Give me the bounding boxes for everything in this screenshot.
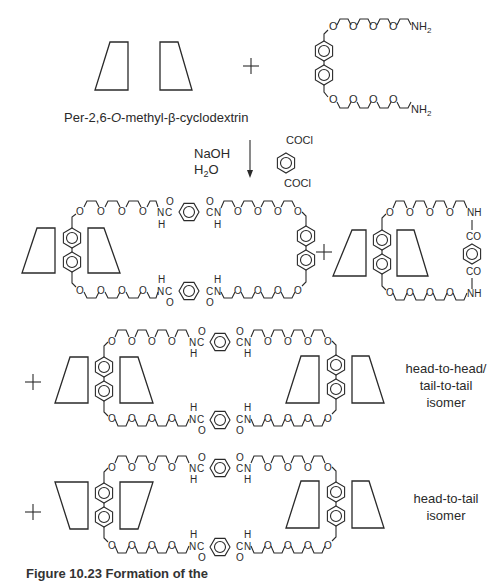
- svg-text:O: O: [284, 462, 292, 473]
- svg-text:C: C: [197, 337, 204, 348]
- svg-text:C: C: [197, 463, 204, 474]
- svg-text:N: N: [244, 337, 251, 348]
- svg-text:O: O: [97, 206, 105, 217]
- svg-text:O: O: [329, 20, 338, 32]
- svg-text:O: O: [254, 285, 262, 296]
- svg-text:O: O: [76, 285, 84, 296]
- svg-text:O: O: [128, 462, 136, 473]
- svg-text:O: O: [206, 297, 214, 308]
- product-rotaxane-1: O O O O N H C O C O N H O O O O O O O O …: [22, 196, 315, 308]
- svg-text:O: O: [446, 207, 454, 218]
- svg-text:C: C: [206, 207, 213, 218]
- svg-text:N: N: [189, 414, 196, 425]
- svg-text:O: O: [406, 207, 414, 218]
- svg-text:N: N: [157, 207, 164, 218]
- svg-text:CO: CO: [466, 266, 481, 277]
- svg-text:H: H: [190, 529, 197, 540]
- svg-text:O: O: [446, 287, 454, 298]
- svg-text:O: O: [168, 462, 176, 473]
- cyclodextrin-right-half-icon: [160, 42, 192, 90]
- svg-text:O: O: [148, 462, 156, 473]
- svg-text:O: O: [264, 462, 272, 473]
- svg-text:O: O: [166, 297, 174, 308]
- svg-text:H: H: [214, 274, 221, 285]
- svg-text:C: C: [236, 541, 243, 552]
- reactant-label: Per-2,6-O-methyl-β-cyclodextrin: [64, 110, 249, 125]
- svg-text:O: O: [284, 413, 292, 424]
- svg-text:O: O: [198, 452, 206, 463]
- svg-text:O: O: [168, 540, 176, 551]
- svg-text:O: O: [118, 206, 126, 217]
- svg-text:O: O: [128, 540, 136, 551]
- ht-isomer: O O O O N H C O C O N H O O O O O O O O …: [55, 452, 384, 563]
- svg-text:O: O: [304, 336, 312, 347]
- svg-text:C: C: [236, 337, 243, 348]
- svg-text:O: O: [148, 540, 156, 551]
- svg-text:H: H: [244, 348, 251, 359]
- amine-group-top: NH2: [411, 20, 432, 35]
- svg-text:O: O: [108, 462, 116, 473]
- svg-text:C: C: [197, 541, 204, 552]
- biphenyl-diamine-reactant: O O O O NH2 O O O O NH2: [315, 19, 431, 118]
- svg-text:O: O: [304, 413, 312, 424]
- svg-text:O: O: [206, 196, 214, 207]
- amine-group-bottom: NH2: [411, 103, 432, 118]
- svg-text:NH: NH: [467, 207, 481, 218]
- svg-text:O: O: [128, 413, 136, 424]
- svg-text:O: O: [254, 206, 262, 217]
- svg-text:O: O: [198, 425, 206, 436]
- svg-text:C: C: [165, 207, 172, 218]
- svg-text:O: O: [294, 206, 302, 217]
- svg-text:O: O: [274, 285, 282, 296]
- svg-text:O: O: [264, 413, 272, 424]
- svg-text:H: H: [244, 474, 251, 485]
- reagent-water: H2O: [194, 162, 219, 179]
- reaction-arrow: [247, 140, 253, 178]
- svg-text:H: H: [190, 474, 197, 485]
- svg-text:O: O: [369, 93, 378, 105]
- plus-sign-4: [25, 504, 41, 520]
- product-rotaxane-2-partial: O O O O NH CO CO O O O O NH: [333, 201, 481, 300]
- terephthaloyl-chloride: COCl COCl: [277, 134, 312, 189]
- svg-text:O: O: [274, 206, 282, 217]
- svg-text:O: O: [349, 93, 358, 105]
- svg-text:O: O: [369, 20, 378, 32]
- svg-text:O: O: [234, 285, 242, 296]
- svg-text:N: N: [189, 541, 196, 552]
- svg-text:COCl: COCl: [284, 177, 311, 189]
- svg-text:O: O: [284, 336, 292, 347]
- svg-text:N: N: [214, 207, 221, 218]
- svg-text:N: N: [214, 286, 221, 297]
- svg-text:C: C: [197, 414, 204, 425]
- svg-text:N: N: [189, 337, 196, 348]
- svg-text:O: O: [148, 413, 156, 424]
- svg-text:O: O: [386, 207, 394, 218]
- plus-sign-1: [243, 58, 259, 74]
- svg-text:O: O: [304, 462, 312, 473]
- plus-sign-2: [316, 244, 332, 260]
- svg-text:COCl: COCl: [286, 134, 313, 146]
- svg-text:O: O: [139, 285, 147, 296]
- svg-text:O: O: [148, 336, 156, 347]
- svg-text:C: C: [165, 286, 172, 297]
- svg-text:O: O: [168, 336, 176, 347]
- svg-text:O: O: [406, 287, 414, 298]
- svg-text:N: N: [157, 286, 164, 297]
- svg-text:O: O: [284, 540, 292, 551]
- reagent-naoh: NaOH: [194, 146, 230, 161]
- svg-text:H: H: [244, 529, 251, 540]
- svg-text:O: O: [389, 93, 398, 105]
- svg-text:O: O: [108, 540, 116, 551]
- svg-text:O: O: [264, 336, 272, 347]
- svg-text:O: O: [234, 206, 242, 217]
- svg-text:NH: NH: [467, 288, 481, 299]
- svg-text:O: O: [76, 206, 84, 217]
- svg-text:O: O: [426, 207, 434, 218]
- svg-text:N: N: [244, 541, 251, 552]
- isomer-label-hh-tt: head-to-head/ tail-to-tail isomer: [396, 360, 496, 411]
- svg-text:O: O: [389, 20, 398, 32]
- svg-text:O: O: [324, 336, 332, 347]
- svg-text:H: H: [190, 402, 197, 413]
- svg-text:N: N: [189, 463, 196, 474]
- svg-text:CO: CO: [466, 231, 481, 242]
